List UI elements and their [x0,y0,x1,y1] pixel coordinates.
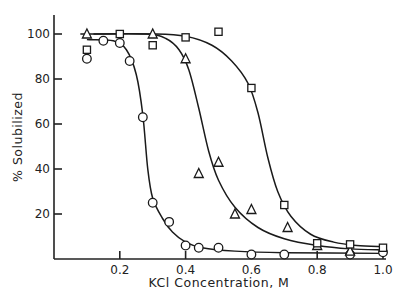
circle-marker [280,250,289,259]
circle-marker [99,36,108,45]
circles-fit-curve [87,40,383,254]
square-marker [281,201,288,208]
y-tick-label: 60 [35,117,50,131]
chart: 20406080100 0.20.40.60.81.0 KCl Concentr… [0,0,402,299]
square-marker [182,34,189,41]
square-marker [379,244,386,251]
x-tick-label: 0.2 [110,263,129,277]
data-markers [82,28,387,259]
circle-marker [116,39,125,48]
circle-marker [83,54,92,63]
square-marker [83,46,90,53]
y-tick-label: 20 [35,207,50,221]
y-axis-title: % Solubilized [10,92,25,182]
y-tick-label: 80 [35,72,50,86]
square-marker [116,30,123,37]
circle-marker [194,243,203,252]
axes [54,15,386,259]
square-marker [314,240,321,247]
triangle-marker [214,157,223,166]
circle-marker [247,250,256,259]
y-tick-label: 40 [35,162,50,176]
triangle-marker [283,223,292,232]
y-tick-label: 100 [27,27,50,41]
square-marker [215,28,222,35]
fit-curves [80,34,383,254]
circle-marker [181,241,190,250]
x-tick-label: 1.0 [373,263,392,277]
x-axis-title: KCl Concentration, M [149,275,290,290]
y-ticks: 20406080100 [27,27,62,221]
triangle-marker [247,205,256,214]
x-tick-label: 0.8 [308,263,327,277]
triangle-marker [194,169,203,178]
circle-marker [214,243,223,252]
circle-marker [165,218,174,227]
square-marker [149,42,156,49]
circle-marker [148,198,157,207]
circle-marker [139,113,148,122]
circle-marker [125,57,134,66]
square-marker [248,84,255,91]
square-marker [347,241,354,248]
